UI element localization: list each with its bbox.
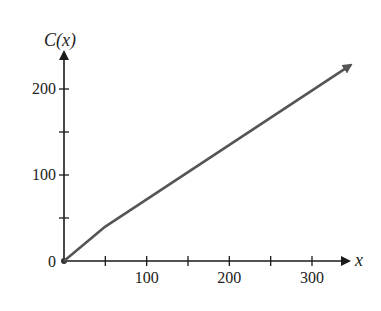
x-tick-label: 100 [135, 269, 159, 286]
y-tick-label: 100 [32, 166, 56, 183]
y-axis-label: C(x) [44, 30, 76, 51]
origin-label: 0 [48, 253, 56, 270]
cost-curve [64, 65, 351, 261]
x-axis-label: x [354, 250, 363, 270]
x-tick-label: 200 [217, 269, 241, 286]
y-tick-label: 200 [32, 80, 56, 97]
x-tick-label: 300 [300, 269, 324, 286]
chart: 100200300 100200 C(x) x 0 [0, 0, 381, 311]
